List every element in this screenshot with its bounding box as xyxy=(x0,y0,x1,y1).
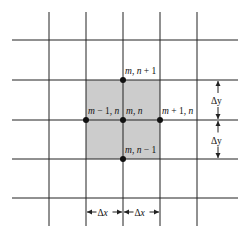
finite-difference-grid-diagram: m, n + 1m − 1, nm, nm + 1, nm, n − 1 ΔyΔ… xyxy=(0,0,252,239)
node-dot-top xyxy=(120,77,126,83)
node-label-right: m + 1, n xyxy=(162,106,193,116)
node-dot-left xyxy=(83,117,89,123)
dy-label: Δy xyxy=(211,136,222,146)
node-label-left: m − 1, n xyxy=(88,106,119,116)
node-label-top: m, n + 1 xyxy=(125,66,156,76)
node-dot-center xyxy=(120,117,126,123)
dx-label: Δx xyxy=(135,208,146,218)
dx-label: Δx xyxy=(98,208,109,218)
node-dot-right xyxy=(157,117,163,123)
node-label-center: m, n xyxy=(126,106,143,116)
dy-label: Δy xyxy=(211,96,222,106)
node-label-bottom: m, n − 1 xyxy=(125,145,156,155)
node-dot-bottom xyxy=(120,156,126,162)
